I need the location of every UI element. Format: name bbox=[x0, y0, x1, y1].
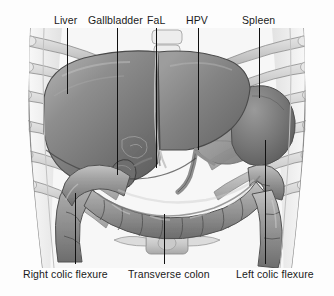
label-fal: FaL bbox=[147, 14, 165, 26]
label-hpv: HPV bbox=[186, 14, 208, 26]
leader-fal bbox=[156, 28, 157, 168]
leader-spleen bbox=[259, 28, 260, 98]
anatomy-figure: Liver Gallbladder FaL HPV Spleen Right c… bbox=[0, 0, 334, 296]
leader-gallbladder bbox=[117, 28, 118, 175]
torso-group bbox=[18, 28, 316, 296]
label-left-colic-flexure: Left colic flexure bbox=[236, 268, 314, 280]
leader-liver bbox=[67, 28, 68, 94]
label-liver: Liver bbox=[54, 14, 77, 26]
leader-right-colic-flexure bbox=[75, 193, 76, 264]
leader-left-colic-flexure bbox=[265, 140, 266, 264]
leader-hpv bbox=[198, 28, 199, 150]
anatomy-illustration bbox=[0, 0, 334, 296]
leader-transverse-colon bbox=[164, 214, 165, 264]
label-transverse-colon: Transverse colon bbox=[128, 268, 210, 280]
label-spleen: Spleen bbox=[242, 14, 275, 26]
label-gallbladder: Gallbladder bbox=[88, 14, 143, 26]
label-right-colic-flexure: Right colic flexure bbox=[23, 268, 108, 280]
